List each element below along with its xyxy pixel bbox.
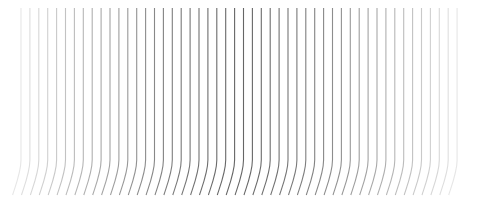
pattern-line — [271, 8, 279, 195]
pattern-line — [422, 8, 430, 195]
pattern-line — [75, 8, 83, 195]
pattern-line — [360, 8, 368, 195]
pattern-line — [324, 8, 332, 195]
pattern-line — [111, 8, 119, 195]
pattern-line — [226, 8, 234, 195]
pattern-line — [235, 8, 243, 195]
pattern-line — [155, 8, 163, 195]
pattern-line — [102, 8, 110, 195]
pattern-line — [289, 8, 297, 195]
pattern-line — [297, 8, 305, 195]
pattern-line — [378, 8, 386, 195]
pattern-line — [217, 8, 225, 195]
pattern-line — [119, 8, 127, 195]
pattern-line — [200, 8, 208, 195]
pattern-line — [164, 8, 172, 195]
pattern-line — [449, 8, 457, 195]
pattern-line — [173, 8, 181, 195]
pattern-line — [306, 8, 314, 195]
pattern-line — [48, 8, 56, 195]
pattern-line — [93, 8, 101, 195]
pattern-line — [146, 8, 154, 195]
pattern-line — [369, 8, 377, 195]
pattern-line — [440, 8, 448, 195]
pattern-line — [244, 8, 252, 195]
pattern-line — [22, 8, 30, 195]
pattern-line — [208, 8, 216, 195]
pattern-line — [342, 8, 350, 195]
pattern-line — [128, 8, 136, 195]
pattern-line — [66, 8, 74, 195]
pattern-line — [137, 8, 145, 195]
pattern-line — [386, 8, 394, 195]
pattern-line — [413, 8, 421, 195]
pattern-line — [182, 8, 190, 195]
pattern-line — [404, 8, 412, 195]
pattern-line — [253, 8, 261, 195]
pattern-line — [431, 8, 439, 195]
pattern-line — [84, 8, 92, 195]
pattern-line — [191, 8, 199, 195]
pattern-line — [280, 8, 288, 195]
pattern-line — [57, 8, 65, 195]
pattern-line — [262, 8, 270, 195]
pattern-line — [351, 8, 359, 195]
pattern-line — [333, 8, 341, 195]
sawtooth-line-pattern — [0, 0, 481, 204]
pattern-line — [30, 8, 38, 195]
pattern-line — [13, 8, 21, 195]
pattern-line — [395, 8, 403, 195]
pattern-line — [39, 8, 47, 195]
pattern-line — [315, 8, 323, 195]
